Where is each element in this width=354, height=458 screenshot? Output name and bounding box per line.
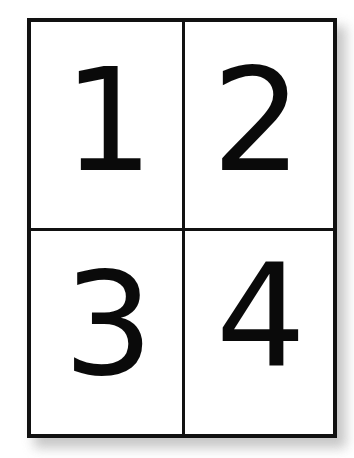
quadrant-bottom-left: 3: [31, 231, 182, 434]
quadrant-top-right: 2: [185, 22, 333, 228]
quadrant-number: 4: [216, 246, 306, 388]
quadrant-number: 3: [63, 254, 153, 396]
quadrant-bottom-right: 4: [185, 231, 333, 434]
quadrant-number: 2: [212, 50, 302, 192]
quadrant-top-left: 1: [31, 22, 182, 228]
page-layout-grid: 1 2 3 4: [27, 18, 337, 438]
quadrant-number: 1: [63, 50, 153, 192]
